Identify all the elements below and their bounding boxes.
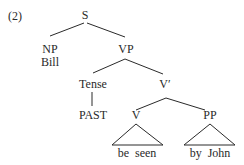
node-vbar: V′: [159, 78, 170, 90]
edge-s-np: [50, 23, 84, 36]
example-number: (2): [8, 10, 22, 22]
node-pp: PP: [203, 109, 216, 121]
edge-s-vp: [87, 23, 125, 37]
leaf-by-john: by John: [190, 147, 231, 159]
leaf-be-seen: be seen: [118, 147, 157, 159]
edge-vp-vbar: [125, 59, 163, 74]
tree-edges: [0, 0, 244, 165]
node-v: V: [132, 109, 141, 121]
triangle-v: [112, 124, 163, 145]
leaf-past: PAST: [79, 109, 107, 121]
node-np: NP: [42, 43, 57, 55]
node-vp: VP: [118, 43, 133, 55]
leaf-bill: Bill: [41, 56, 59, 68]
edge-vp-tense: [93, 59, 125, 73]
node-s: S: [82, 9, 89, 21]
triangle-pp: [184, 124, 235, 145]
node-tense: Tense: [79, 78, 107, 90]
edge-vbar-pp: [166, 98, 205, 110]
